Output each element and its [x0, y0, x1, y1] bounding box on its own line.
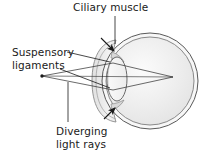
light-source-point — [40, 74, 43, 77]
diverging-light-rays-label-line2: light rays — [56, 139, 106, 151]
ciliary-muscle-label: Ciliary muscle — [73, 2, 148, 14]
suspensory-ligaments-label-line1: Suspensory — [12, 47, 74, 59]
diverging-light-rays-label-line1: Diverging — [56, 126, 108, 138]
suspensory-ligaments-label-line2: ligaments — [12, 60, 65, 72]
eye-accommodation-figure: Ciliary muscle Suspensory ligaments Dive… — [0, 0, 205, 159]
